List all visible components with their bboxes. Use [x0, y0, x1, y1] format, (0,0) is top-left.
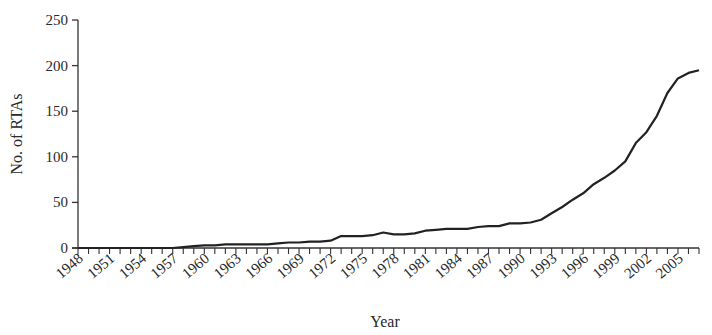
y-tick-label: 100	[46, 149, 69, 165]
x-tick-label: 2002	[621, 250, 654, 282]
x-tick-label: 1975	[337, 250, 370, 282]
x-tick-label: 1996	[558, 250, 592, 282]
y-tick-label: 50	[53, 194, 68, 210]
x-tick-label: 1948	[53, 250, 86, 282]
y-tick-label: 250	[46, 12, 69, 28]
y-tick-label: 0	[61, 240, 69, 256]
line-chart: 050100150200250 194819511954195719601963…	[0, 0, 712, 335]
x-tick-label: 1990	[495, 250, 528, 282]
x-tick-label: 1960	[179, 250, 212, 282]
x-tick-label: 1951	[84, 250, 117, 282]
x-tick-label: 1993	[526, 250, 559, 282]
y-tick-label: 150	[46, 103, 69, 119]
x-tick-label: 1954	[116, 250, 150, 282]
x-axis-title: Year	[370, 313, 400, 330]
x-tick-label: 1972	[305, 250, 338, 282]
x-tick-label: 1966	[242, 250, 276, 282]
y-axis: 050100150200250	[46, 12, 79, 256]
y-axis-title: No. of RTAs	[8, 94, 25, 175]
x-tick-label: 1963	[211, 250, 244, 282]
x-tick-label: 1981	[400, 250, 433, 282]
x-tick-label: 1969	[274, 250, 307, 282]
x-axis: 1948195119541957196019631966196919721975…	[53, 248, 699, 282]
x-tick-label: 1987	[463, 250, 497, 282]
x-tick-label: 1984	[432, 250, 466, 282]
x-tick-label: 2005	[653, 250, 686, 282]
y-tick-label: 200	[46, 58, 69, 74]
x-tick-label: 1957	[147, 250, 181, 282]
rta-count-line	[78, 70, 699, 248]
x-tick-label: 1999	[589, 250, 622, 282]
x-tick-label: 1978	[368, 250, 401, 282]
